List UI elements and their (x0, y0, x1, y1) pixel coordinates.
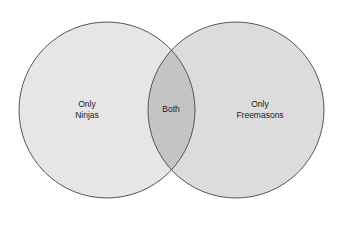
ninjas-label-line2: Ninjas (57, 110, 117, 121)
ninjas-only-label: Only Ninjas (57, 99, 117, 121)
both-label: Both (151, 104, 191, 115)
freemasons-label-line2: Freemasons (220, 110, 300, 121)
freemasons-label-line1: Only (220, 99, 300, 110)
both-label-text: Both (162, 104, 180, 114)
ninjas-label-line1: Only (57, 99, 117, 110)
freemasons-only-label: Only Freemasons (220, 99, 300, 121)
